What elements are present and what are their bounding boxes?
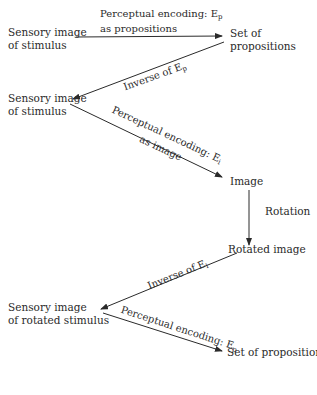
node-text: of stimulus (8, 39, 87, 52)
node-text: Sensory image (8, 92, 87, 105)
label-rotation: Rotation (265, 205, 310, 217)
node-image: Image (230, 175, 263, 188)
node-sensory-image-rotated-stimulus: Sensory image of rotated stimulus (8, 301, 109, 327)
node-set-of-propositions-2: Set of propositions (227, 346, 317, 359)
label-text: as propositions (100, 23, 222, 35)
label-subscript: p (218, 13, 222, 21)
node-text: of rotated stimulus (8, 314, 109, 327)
node-sensory-image-stimulus-2: Sensory image of stimulus (8, 92, 87, 118)
node-sensory-image-stimulus-1: Sensory image of stimulus (8, 26, 87, 52)
node-text: of stimulus (8, 105, 87, 118)
node-text: propositions (230, 40, 296, 53)
arrow-inverse-ep (73, 42, 224, 99)
label-text: Perceptual encoding: E (100, 8, 218, 19)
node-text: Sensory image (8, 301, 109, 314)
arrow-encode-propositions (76, 36, 222, 37)
label-encode-propositions: Perceptual encoding: Ep as propositions (100, 8, 222, 35)
node-text: Sensory image (8, 26, 87, 39)
node-rotated-image: Rotated image (228, 243, 306, 256)
node-set-of-propositions-1: Set of propositions (230, 27, 296, 53)
diagram-arrows (0, 0, 317, 395)
node-text: Set of (230, 27, 296, 40)
